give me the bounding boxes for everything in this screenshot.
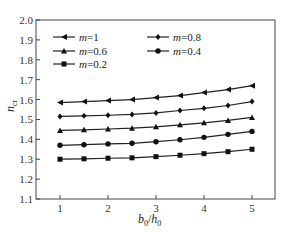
legend-item: m=0.2 — [53, 58, 107, 70]
triangle-left-marker-icon — [153, 95, 159, 101]
legend-item: m=0.6 — [53, 45, 107, 57]
diamond-marker-icon — [106, 112, 111, 118]
square-marker-icon — [58, 157, 63, 162]
square-marker-icon — [202, 151, 207, 156]
legend-label: m=0.2 — [79, 58, 107, 70]
data-series — [57, 83, 255, 162]
square-marker-icon — [178, 153, 183, 158]
y-tick-label: 1.7 — [19, 74, 33, 86]
legend-label: m=0.4 — [173, 45, 201, 57]
y-tick-label: 1.3 — [19, 153, 33, 165]
triangle-left-marker-icon — [105, 98, 111, 104]
series-m-0-2 — [58, 147, 255, 162]
y-tick-label: 1.6 — [19, 94, 33, 106]
triangle-left-marker-icon — [225, 87, 231, 93]
diamond-marker-icon — [130, 111, 135, 117]
circle-marker-icon — [153, 139, 158, 144]
triangle-left-marker-icon — [249, 83, 255, 89]
circle-marker-icon — [129, 141, 134, 146]
legend-label: m=0.6 — [79, 45, 107, 57]
y-axis-ticks: 1.11.21.31.41.51.61.71.81.92.0 — [19, 14, 40, 205]
y-tick-label: 1.5 — [19, 113, 33, 125]
legend-item: m=0.8 — [147, 31, 201, 43]
x-tick-label: 5 — [249, 202, 255, 214]
diamond-marker-icon — [226, 103, 231, 109]
triangle-left-marker-icon — [201, 90, 207, 96]
x-axis-label: b0/h0 — [138, 212, 161, 228]
triangle-left-marker-icon — [57, 100, 63, 106]
series-m-0-6 — [57, 114, 255, 132]
legend: m=1m=0.8m=0.6m=0.4m=0.2 — [53, 31, 201, 70]
diamond-marker-icon — [178, 107, 183, 113]
diamond-marker-icon — [156, 34, 161, 40]
triangle-left-marker-icon — [177, 93, 183, 99]
legend-label: m=0.8 — [173, 31, 201, 43]
series-m-0-4 — [57, 129, 254, 148]
square-marker-icon — [106, 156, 111, 161]
y-tick-label: 1.2 — [19, 173, 33, 185]
circle-marker-icon — [201, 135, 206, 140]
legend-label: m=1 — [79, 31, 99, 43]
legend-item: m=1 — [53, 31, 99, 43]
x-tick-label: 4 — [201, 202, 207, 214]
y-tick-label: 1.1 — [19, 193, 33, 205]
x-tick-label: 1 — [57, 202, 63, 214]
diamond-marker-icon — [202, 105, 207, 111]
circle-marker-icon — [57, 143, 62, 148]
diamond-marker-icon — [58, 113, 63, 119]
triangle-left-marker-icon — [129, 97, 135, 103]
triangle-left-marker-icon — [61, 34, 67, 40]
plot-frame — [36, 20, 275, 199]
y-tick-label: 1.9 — [19, 34, 33, 46]
square-marker-icon — [130, 155, 135, 160]
circle-marker-icon — [81, 142, 86, 147]
series-line — [60, 86, 252, 103]
y-tick-label: 1.8 — [19, 54, 33, 66]
plot-border — [36, 20, 275, 199]
square-marker-icon — [226, 149, 231, 154]
legend-item: m=0.4 — [147, 45, 201, 57]
x-tick-label: 2 — [105, 202, 111, 214]
y-tick-label: 1.4 — [19, 133, 33, 145]
circle-marker-icon — [155, 48, 160, 53]
diamond-marker-icon — [250, 99, 255, 105]
circle-marker-icon — [177, 137, 182, 142]
circle-marker-icon — [105, 141, 110, 146]
diamond-marker-icon — [154, 110, 159, 116]
line-chart: 1.11.21.31.41.51.61.71.81.92.0 12345 m=1… — [0, 0, 287, 233]
square-marker-icon — [82, 156, 87, 161]
square-marker-icon — [250, 147, 255, 152]
circle-marker-icon — [249, 129, 254, 134]
square-marker-icon — [154, 154, 159, 159]
diamond-marker-icon — [82, 113, 87, 119]
square-marker-icon — [62, 62, 67, 67]
series-m-1 — [57, 83, 255, 106]
triangle-left-marker-icon — [81, 99, 87, 105]
circle-marker-icon — [225, 132, 230, 137]
y-tick-label: 2.0 — [19, 14, 33, 26]
y-axis-label: ncr — [3, 99, 19, 112]
